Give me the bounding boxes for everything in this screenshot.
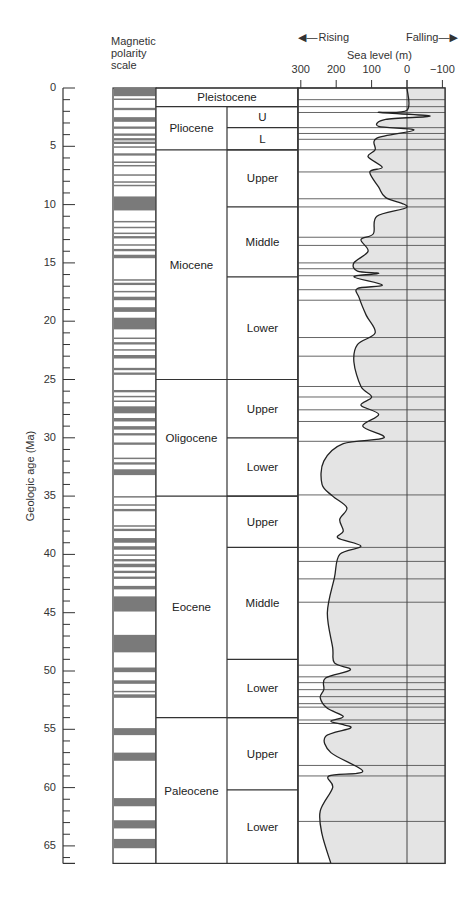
normal-polarity-band <box>114 596 155 611</box>
normal-polarity-band <box>114 165 155 167</box>
normal-polarity-band <box>114 680 155 683</box>
normal-polarity-band <box>114 291 155 293</box>
normal-polarity-band <box>114 133 155 135</box>
sub-epoch-label: Upper <box>227 496 298 547</box>
normal-polarity-band <box>114 307 155 312</box>
normal-polarity-band <box>114 418 155 421</box>
normal-polarity-band <box>114 181 155 183</box>
x-tick-label: −100 <box>422 63 462 75</box>
normal-polarity-band <box>114 691 155 693</box>
normal-polarity-band <box>114 98 155 100</box>
normal-polarity-band <box>114 297 155 300</box>
normal-polarity-band <box>114 355 155 358</box>
normal-polarity-band <box>114 108 155 110</box>
normal-polarity-band <box>114 117 155 122</box>
normal-polarity-band <box>114 462 155 464</box>
normal-polarity-band <box>114 373 155 375</box>
x-tick-label: 300 <box>281 63 321 75</box>
normal-polarity-band <box>114 283 155 285</box>
y-tick-label: 10 <box>32 198 56 210</box>
normal-polarity-band <box>114 694 155 697</box>
normal-polarity-band <box>114 88 155 96</box>
y-tick-label: 55 <box>32 722 56 734</box>
normal-polarity-band <box>114 525 155 527</box>
normal-polarity-band <box>114 138 155 140</box>
normal-polarity-band <box>114 577 155 579</box>
normal-polarity-band <box>114 426 155 429</box>
normal-polarity-band <box>114 839 155 848</box>
normal-polarity-band <box>114 820 155 828</box>
epoch-label-eocene: Eocene <box>156 496 227 718</box>
normal-polarity-band <box>114 406 155 413</box>
sub-epoch-label: Lower <box>227 438 298 496</box>
normal-polarity-band <box>114 509 155 511</box>
normal-polarity-band <box>114 571 155 573</box>
normal-polarity-band <box>114 368 155 370</box>
y-tick-label: 45 <box>32 606 56 618</box>
y-tick-label: 60 <box>32 781 56 793</box>
normal-polarity-band <box>114 349 155 351</box>
normal-polarity-band <box>114 126 155 128</box>
normal-polarity-band <box>114 538 155 543</box>
normal-polarity-band <box>114 442 155 444</box>
normal-polarity-band <box>114 396 155 398</box>
normal-polarity-band <box>114 255 155 258</box>
y-tick-label: 20 <box>32 314 56 326</box>
normal-polarity-band <box>114 146 155 148</box>
normal-polarity-band <box>114 433 155 435</box>
normal-polarity-band <box>114 400 155 402</box>
sub-epoch-label: Lower <box>227 659 298 717</box>
sub-epoch-label: Lower <box>227 277 298 380</box>
epoch-label-paleocene: Paleocene <box>156 718 227 864</box>
x-tick-label: 0 <box>387 63 427 75</box>
normal-polarity-band <box>114 559 155 561</box>
normal-polarity-band <box>114 174 155 176</box>
normal-polarity-band <box>114 249 155 251</box>
normal-polarity-band <box>114 196 155 210</box>
y-tick-label: 40 <box>32 547 56 559</box>
normal-polarity-band <box>114 546 155 549</box>
epoch-label-pleistocene: Pleistocene <box>156 88 298 107</box>
normal-polarity-band <box>114 153 155 155</box>
y-tick-label: 15 <box>32 256 56 268</box>
normal-polarity-band <box>114 279 155 281</box>
normal-polarity-band <box>114 233 155 235</box>
y-tick-label: 0 <box>32 81 56 93</box>
normal-polarity-band <box>114 338 155 340</box>
normal-polarity-band <box>114 668 155 673</box>
sub-epoch-label: Upper <box>227 380 298 438</box>
normal-polarity-band <box>114 586 155 589</box>
normal-polarity-band <box>114 529 155 531</box>
normal-polarity-band <box>114 142 155 144</box>
normal-polarity-band <box>114 161 155 163</box>
normal-polarity-band <box>114 635 155 652</box>
normal-polarity-band <box>114 318 155 330</box>
sub-epoch-label: Lower <box>227 790 298 863</box>
normal-polarity-band <box>114 753 155 761</box>
normal-polarity-band <box>114 504 155 506</box>
normal-polarity-band <box>114 469 155 475</box>
sub-epoch-label: U <box>227 107 298 128</box>
epoch-label-miocene: Miocene <box>156 150 227 380</box>
normal-polarity-band <box>114 221 155 223</box>
normal-polarity-band <box>114 342 155 344</box>
y-tick-label: 5 <box>32 139 56 151</box>
sub-epoch-label: Upper <box>227 150 298 207</box>
sub-epoch-label: L <box>227 128 298 150</box>
epoch-label-oligocene: Oligocene <box>156 380 227 497</box>
y-tick-label: 35 <box>32 489 56 501</box>
normal-polarity-band <box>114 798 155 806</box>
sub-epoch-label: Middle <box>227 547 298 659</box>
normal-polarity-band <box>114 227 155 229</box>
normal-polarity-band <box>114 564 155 567</box>
sub-epoch-label: Middle <box>227 207 298 277</box>
normal-polarity-band <box>114 244 155 246</box>
normal-polarity-band <box>114 390 155 392</box>
normal-polarity-band <box>114 554 155 556</box>
y-tick-label: 25 <box>32 373 56 385</box>
x-tick-label: 100 <box>352 63 392 75</box>
normal-polarity-band <box>114 185 155 187</box>
normal-polarity-band <box>114 496 155 498</box>
x-tick-label: 200 <box>316 63 356 75</box>
normal-polarity-band <box>114 458 155 460</box>
